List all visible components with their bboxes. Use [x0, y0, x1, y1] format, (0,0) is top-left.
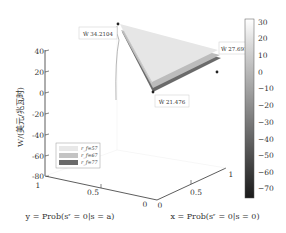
z-tick-label: 20: [34, 68, 44, 77]
legend-swatch: [59, 146, 78, 151]
z-tick-label: -60: [32, 152, 44, 161]
z-tick-label: -80: [32, 172, 44, 181]
colorbar: 30 20 10 0 −10 −20 −30 −40 −50 −60 −70: [245, 18, 274, 198]
z-tick-label: 40: [34, 47, 44, 56]
y-axis-label: y = Prob(sʳ = 0|s = a): [25, 212, 115, 221]
colorbar-tick: −60: [258, 168, 274, 177]
x-axis-label: x = Prob(sʳ = 0|s = 0): [170, 212, 259, 221]
z-axis: 40 20 0 -20 -40 -60 -80 W/(美元/兆瓦时): [15, 47, 49, 181]
colorbar-tick: −70: [258, 184, 274, 193]
z-tick-label: -40: [32, 131, 44, 140]
colorbar-tick: −20: [258, 101, 274, 110]
colorbar-tick: −30: [258, 118, 274, 127]
annotation-bottom: Ŵ 21.476: [152, 91, 189, 107]
colorbar-tick: 0: [258, 68, 263, 77]
colorbar-tick: 20: [258, 34, 268, 43]
y-tick-label: 0.5: [87, 188, 99, 197]
y-axis: 1 0.5 0 y = Prob(sʳ = 0|s = a): [25, 176, 157, 221]
colorbar-tick: 10: [258, 51, 268, 60]
x-tick-label: 1: [229, 170, 234, 179]
legend-swatch: [59, 153, 78, 158]
annotation-label: Ŵ 34.2104: [83, 30, 114, 37]
legend-swatch: [59, 160, 78, 165]
x-tick-label: 0.5: [190, 188, 202, 197]
z-tick-label: -20: [32, 110, 44, 119]
x-tick-label: 0: [158, 201, 163, 210]
colorbar-tick: 30: [258, 18, 268, 27]
colorbar-tick: −10: [258, 84, 274, 93]
colorbar-tick: −40: [258, 135, 274, 144]
y-tick-label: 0: [143, 200, 148, 209]
x-axis: 0 0.5 1 x = Prob(sʳ = 0|s = 0): [157, 168, 260, 221]
colorbar-tick: −50: [258, 151, 274, 160]
z-tick-marks: [45, 50, 49, 176]
y-tick-label: 1: [36, 181, 41, 190]
z-tick-label: 0: [39, 89, 44, 98]
chart-canvas: 40 20 0 -20 -40 -60 -80 W/(美元/兆瓦时) 1 0.5…: [0, 0, 286, 233]
annotation-top: Ŵ 34.2104: [79, 23, 119, 39]
z-axis-label: W/(美元/兆瓦时): [15, 87, 25, 147]
annotation-label: Ŵ 21.476: [159, 98, 186, 105]
legend: r_f=57 r_f=67 r_f=77: [56, 143, 100, 168]
